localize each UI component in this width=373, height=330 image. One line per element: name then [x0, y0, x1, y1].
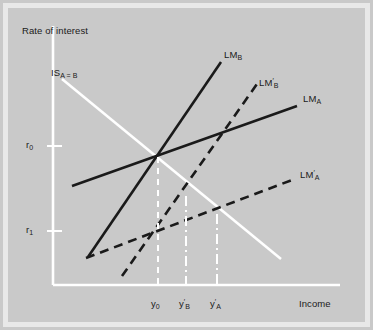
y-axis-title: Rate of interest: [22, 26, 88, 36]
lm-b-curve-label-base: LM: [224, 49, 237, 60]
lm-b-prime-curve-label: LM′B: [259, 78, 279, 88]
plot-background: [8, 8, 365, 322]
lm-a-prime-label-sub: A: [315, 174, 320, 181]
lm-b-prime-label-sub: B: [274, 82, 279, 89]
y-tick-label-r0-sub: 0: [29, 144, 33, 151]
lm-a-prime-curve-label: LM′A: [300, 170, 320, 180]
lm-b-curve-label: LMB: [224, 50, 242, 60]
x-tick-label-y0: y0: [151, 299, 160, 309]
figure-container: Rate of interest Income r0 r1 y0 y′B y′A…: [0, 0, 373, 330]
lm-b-curve-label-sub: B: [237, 54, 242, 61]
lm-b-prime-label-base: LM: [259, 77, 272, 88]
y-tick-label-r1-sub: 1: [29, 229, 33, 236]
lm-a-curve-label-sub: A: [316, 98, 321, 105]
is-curve-label: ISA = B: [51, 68, 78, 78]
lm-a-curve-label: LMA: [303, 94, 321, 104]
lm-a-curve-label-base: LM: [303, 93, 316, 104]
x-tick-label-ya-prime: y′A: [210, 299, 221, 309]
y-tick-label-r1: r1: [26, 225, 33, 235]
x-tick-label-yb-prime: y′B: [179, 299, 190, 309]
is-curve-label-base: IS: [51, 67, 60, 78]
is-curve-label-sub: A = B: [60, 72, 77, 79]
islm-chart-svg: [0, 0, 373, 330]
x-tick-label-y0-sub: 0: [156, 303, 160, 310]
y-tick-label-r0: r0: [26, 140, 33, 150]
lm-a-prime-label-base: LM: [300, 169, 313, 180]
x-tick-label-yb-sub: B: [185, 303, 190, 310]
x-axis-title: Income: [299, 299, 331, 309]
x-tick-label-ya-sub: A: [216, 303, 221, 310]
